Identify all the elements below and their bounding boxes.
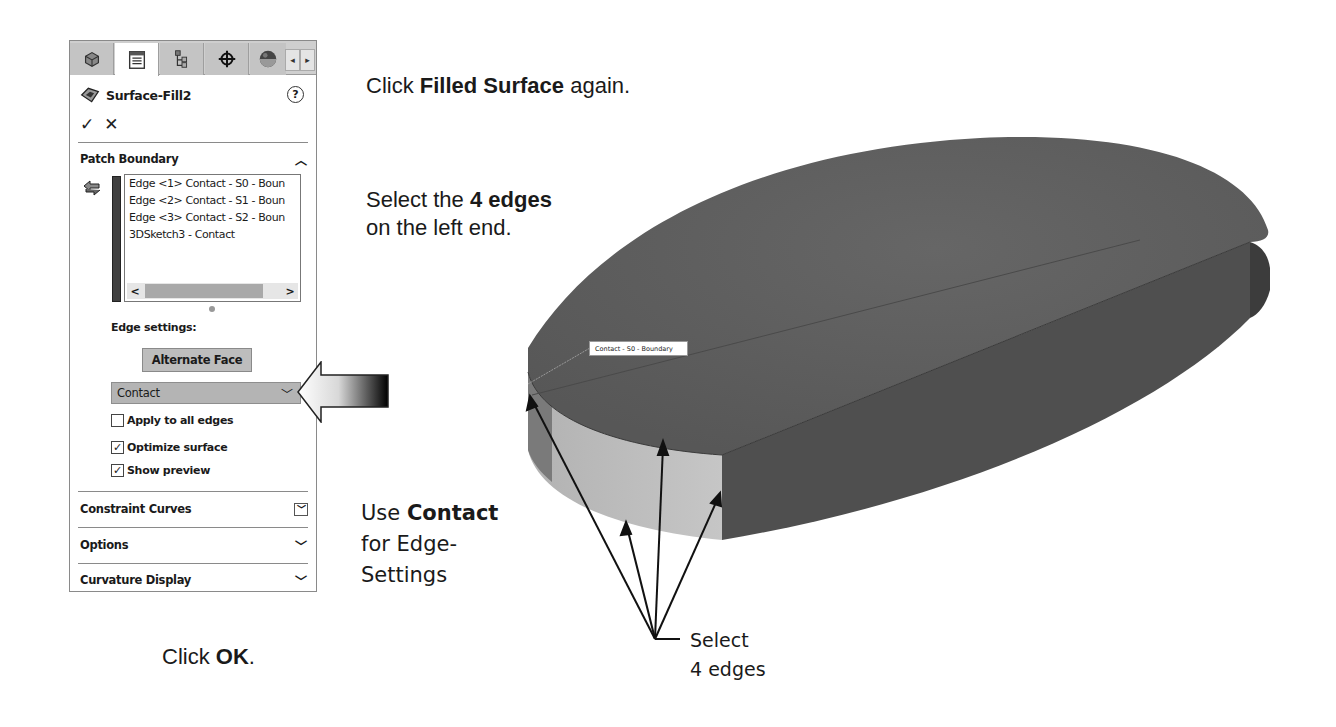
filled-surface-icon	[80, 86, 100, 104]
property-manager-panel: ◂ ▸ Surface-Fill2 ? ✓ ✕ Patch Boundary ︿…	[69, 40, 317, 592]
alternate-face-button[interactable]: Alternate Face	[142, 348, 252, 372]
checkbox-unchecked-icon[interactable]	[111, 414, 124, 427]
horizontal-scrollbar[interactable]: < >	[127, 283, 298, 299]
checkbox-checked-icon[interactable]: ✓	[111, 464, 124, 477]
apply-to-all-edges-label: Apply to all edges	[127, 414, 233, 427]
chevron-up-icon[interactable]: ︿	[294, 151, 308, 168]
select-edges-label: Select 4 edges	[690, 626, 766, 684]
chevron-down-icon: ﹀	[280, 385, 294, 402]
top-face	[528, 137, 1268, 455]
chevron-down-icon[interactable]: ﹀	[294, 537, 308, 554]
four-edges-emphasis: 4 edges	[470, 187, 552, 212]
caret-right-icon: ▸	[305, 55, 310, 65]
feature-title: Surface-Fill2	[106, 88, 191, 103]
tab-scroll-left-button[interactable]: ◂	[285, 49, 300, 71]
tab-dimxpert-manager[interactable]	[205, 43, 249, 75]
instruction-step-1: Click Filled Surface again.	[366, 72, 630, 100]
edge-setting-dropdown[interactable]: Contact ﹀	[111, 382, 301, 404]
cancel-button[interactable]: ✕	[104, 114, 118, 134]
leader-arrows	[527, 396, 721, 639]
scroll-right-icon[interactable]: >	[282, 285, 298, 298]
side-face-light	[528, 372, 722, 540]
show-preview-label: Show preview	[127, 464, 210, 477]
constraint-curves-label: Constraint Curves	[80, 502, 191, 516]
tab-property-manager[interactable]	[115, 43, 159, 76]
constraint-curves-header[interactable]: Constraint Curves ﹀	[80, 500, 308, 518]
patch-boundary-list[interactable]: Edge <1> Contact - S0 - Boun Edge <2> Co…	[124, 174, 301, 302]
contact-emphasis: Contact	[407, 501, 499, 525]
list-resize-handle[interactable]	[209, 306, 215, 312]
part-icon	[81, 48, 103, 70]
side-face-dark	[722, 242, 1250, 540]
instruction-step-3: Use Contact for Edge- Settings	[361, 498, 498, 591]
apply-to-all-edges-checkbox[interactable]: Apply to all edges	[111, 414, 233, 427]
ok-emphasis: OK	[216, 644, 249, 669]
ok-cancel-row: ✓ ✕	[80, 114, 119, 134]
appearance-sphere-icon	[257, 48, 279, 70]
instruction-step-2: Select the 4 edges on the left end.	[366, 186, 552, 242]
tab-configuration-manager[interactable]	[160, 43, 204, 75]
scrollbar-thumb[interactable]	[145, 284, 263, 298]
options-header[interactable]: Options ﹀	[80, 536, 308, 554]
patch-boundary-header[interactable]: Patch Boundary ︿	[80, 150, 308, 168]
help-icon[interactable]: ?	[287, 86, 304, 103]
ok-button[interactable]: ✓	[80, 114, 94, 134]
boundary-color-strip	[112, 176, 121, 302]
edge-setting-value: Contact	[117, 386, 160, 400]
divider	[78, 563, 308, 564]
crosshair-icon	[216, 48, 238, 70]
chevron-down-icon[interactable]: ﹀	[294, 503, 308, 516]
show-preview-checkbox[interactable]: ✓ Show preview	[111, 464, 210, 477]
checkbox-checked-icon[interactable]: ✓	[111, 441, 124, 454]
divider	[78, 142, 308, 143]
edge-selection-tooltip: Contact - S0 - Boundary	[589, 341, 688, 356]
list-item[interactable]: Edge <3> Contact - S2 - Boun	[125, 209, 300, 226]
list-item[interactable]: Edge <2> Contact - S1 - Boun	[125, 192, 300, 209]
swap-direction-icon[interactable]	[82, 180, 102, 196]
list-item[interactable]: 3DSketch3 - Contact	[125, 226, 300, 243]
tab-scroll-right-button[interactable]: ▸	[300, 49, 315, 71]
caret-left-icon: ◂	[290, 55, 295, 65]
curvature-display-label: Curvature Display	[80, 573, 191, 587]
divider	[78, 527, 308, 528]
tab-display-manager[interactable]	[250, 43, 286, 75]
patch-boundary-label: Patch Boundary	[80, 152, 178, 166]
feature-title-row: Surface-Fill2 ?	[80, 85, 308, 105]
list-item[interactable]: Edge <1> Contact - S0 - Boun	[125, 175, 300, 192]
instruction-step-4: Click OK.	[162, 643, 255, 671]
divider	[78, 491, 308, 492]
curvature-display-header[interactable]: Curvature Display ﹀	[80, 571, 308, 589]
optimize-surface-checkbox[interactable]: ✓ Optimize surface	[111, 441, 227, 454]
options-label: Options	[80, 538, 128, 552]
optimize-surface-label: Optimize surface	[127, 441, 227, 454]
property-list-icon	[126, 49, 148, 71]
filled-surface-emphasis: Filled Surface	[420, 73, 564, 98]
edge-settings-label: Edge settings:	[111, 321, 196, 334]
tab-feature-manager[interactable]	[70, 43, 114, 75]
chevron-down-icon[interactable]: ﹀	[294, 572, 308, 589]
manager-tab-bar: ◂ ▸	[70, 41, 316, 75]
configuration-tree-icon	[171, 48, 193, 70]
end-face	[1250, 242, 1270, 318]
callout-arrow-icon	[297, 361, 389, 423]
scroll-left-icon[interactable]: <	[127, 285, 143, 298]
